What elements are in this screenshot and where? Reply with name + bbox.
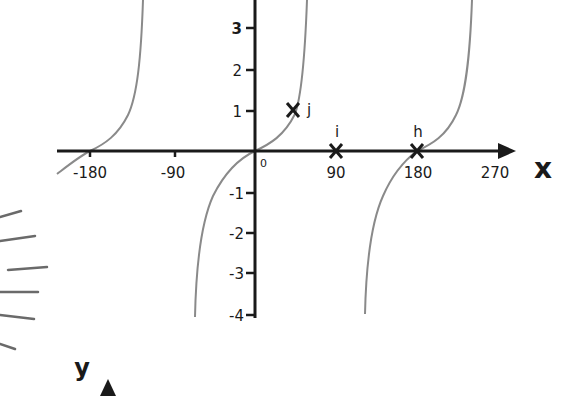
x-tick-label--90: -90 bbox=[161, 164, 186, 182]
x-axis bbox=[57, 143, 516, 159]
x-axis-arrow-icon bbox=[498, 143, 516, 159]
point-i-label: i bbox=[335, 123, 339, 141]
y-axis bbox=[246, 0, 255, 318]
x-tick-label-180: 180 bbox=[404, 164, 433, 182]
curve-branch-left bbox=[57, 0, 143, 174]
x-axis-title: x bbox=[534, 152, 552, 185]
point-h-label: h bbox=[413, 123, 423, 141]
x-tick-label--180: -180 bbox=[73, 164, 107, 182]
origin-label: 0 bbox=[260, 157, 267, 170]
radial-lines-decoration bbox=[0, 211, 47, 349]
y-tick-label-3: 3 bbox=[232, 20, 242, 38]
y-tick-label--1: -1 bbox=[229, 185, 244, 203]
x-tick-label-270: 270 bbox=[481, 164, 510, 182]
y-tick-label-1: 1 bbox=[232, 103, 242, 121]
x-tick-label-90: 90 bbox=[326, 164, 345, 182]
point-j: j bbox=[287, 101, 311, 119]
y-tick-label--4: -4 bbox=[229, 307, 244, 325]
tan-graph: -180 -90 90 180 270 0 3 2 1 -1 -2 -3 -4 … bbox=[0, 0, 584, 396]
y-tick-label--3: -3 bbox=[229, 265, 244, 283]
curve-branch-right bbox=[365, 0, 472, 314]
y-axis-title: y bbox=[74, 354, 90, 382]
curve-branch-center bbox=[195, 0, 307, 317]
point-j-label: j bbox=[306, 101, 311, 119]
y-axis-arrow-icon bbox=[100, 379, 116, 396]
y-tick-label--2: -2 bbox=[229, 225, 244, 243]
point-i: i bbox=[330, 123, 342, 158]
y-tick-label-2: 2 bbox=[232, 62, 242, 80]
point-h: h bbox=[411, 123, 423, 158]
